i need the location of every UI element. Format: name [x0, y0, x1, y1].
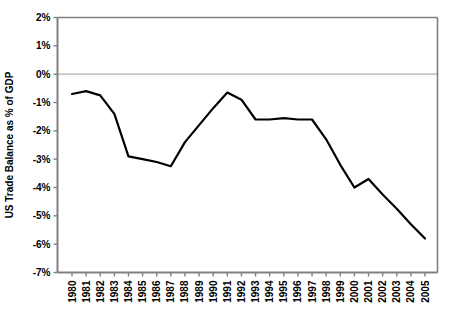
x-tick-label: 1986 [151, 280, 162, 303]
x-tick-label: 1988 [179, 280, 190, 303]
y-tick-label: -4% [33, 182, 51, 193]
x-tick-label: 1992 [236, 280, 247, 303]
x-tick-label: 1990 [208, 280, 219, 303]
x-tick-label: 1984 [123, 280, 134, 303]
x-tick-label: 1982 [95, 280, 106, 303]
x-tick-label: 1999 [335, 280, 346, 303]
y-tick-label: 1% [36, 40, 51, 51]
y-tick-label: -5% [33, 210, 51, 221]
x-tick-label: 1981 [81, 280, 92, 303]
y-tick-label: -3% [33, 154, 51, 165]
y-tick-label: -7% [33, 267, 51, 278]
x-tick-label: 1989 [194, 280, 205, 303]
x-tick-label: 1985 [137, 280, 148, 303]
x-tick-label: 2002 [377, 280, 388, 303]
x-tick-label: 1987 [165, 280, 176, 303]
x-tick-label: 1994 [264, 280, 275, 303]
x-tick-label: 2000 [349, 280, 360, 303]
x-tick-label: 1993 [250, 280, 261, 303]
chart-container: 2%1%0%-1%-2%-3%-4%-5%-6%-7% 198019811982… [0, 0, 453, 312]
x-tick-label: 2005 [420, 280, 431, 303]
x-tick-label: 1998 [321, 280, 332, 303]
x-tick-label: 1983 [109, 280, 120, 303]
y-tick-label: -2% [33, 125, 51, 136]
x-tick-label: 1980 [67, 280, 78, 303]
y-axis-title-text: US Trade Balance as % of GDP [4, 71, 15, 218]
x-tick-label: 1995 [278, 280, 289, 303]
x-tick-label: 2004 [405, 280, 416, 303]
x-tick-label: 2003 [391, 280, 402, 303]
plot-background [0, 0, 453, 312]
y-tick-label: 2% [36, 12, 51, 23]
x-tick-label: 2001 [363, 280, 374, 303]
line-chart: 2%1%0%-1%-2%-3%-4%-5%-6%-7% 198019811982… [0, 0, 453, 312]
y-axis-title: US Trade Balance as % of GDP [4, 71, 15, 218]
x-tick-label: 1991 [222, 280, 233, 303]
y-tick-label: 0% [36, 69, 51, 80]
y-tick-label: -1% [33, 97, 51, 108]
x-tick-label: 1997 [307, 280, 318, 303]
y-tick-label: -6% [33, 239, 51, 250]
x-tick-label: 1996 [292, 280, 303, 303]
